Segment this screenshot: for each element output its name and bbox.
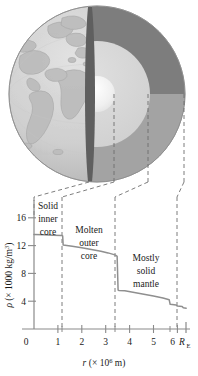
y-tick-label-16: 16 (17, 213, 27, 223)
molten-outer-core-line1: Molten (75, 225, 103, 235)
x-axis-title: r(× 106 m) (83, 357, 126, 369)
molten-outer-core-line2: outer (79, 238, 99, 248)
solid-inner-core-line3: core (40, 227, 56, 237)
mostly-solid-mantle-line1: Mostly (133, 253, 160, 263)
x-tick-label-6: 6 (170, 337, 175, 347)
figure-earth-density: 4 8 12 16 0 1 2 3 4 5 6 R E ρ(× 1000 kg/… (0, 0, 198, 376)
crust-cut-face (85, 7, 95, 182)
solid-inner-core-line1: Solid (38, 201, 58, 211)
x-tick-label-RE-sub: E (187, 342, 191, 349)
svg-text:ρ(× 1000 kg/m3): ρ(× 1000 kg/m3) (3, 243, 15, 309)
connector-lines (34, 182, 184, 197)
y-axis-title-symbol: ρ (4, 302, 14, 308)
density-chart: 4 8 12 16 0 1 2 3 4 5 6 R E ρ(× 1000 kg/… (3, 197, 191, 369)
island-4 (53, 149, 63, 154)
mostly-solid-mantle-line2: solid (137, 266, 156, 276)
x-tick-label-RE-main: R (178, 337, 185, 347)
solid-inner-core-line2: inner (38, 214, 58, 224)
x-tick-label-RE: R E (178, 337, 190, 349)
x-axis-title-open: (× 10 (89, 358, 110, 369)
y-ticks (28, 218, 36, 301)
cut-plane-face (85, 7, 95, 182)
x-tick-label-2: 2 (79, 337, 84, 347)
connector-to-x1p2 (62, 182, 114, 197)
y-tick-label-8: 8 (21, 269, 26, 279)
figure-svg: 4 8 12 16 0 1 2 3 4 5 6 R E ρ(× 1000 kg/… (0, 0, 198, 376)
x-tick-label-1: 1 (56, 337, 61, 347)
y-tick-label-4: 4 (21, 297, 26, 307)
annotation-molten-outer-core: Molten outer core (75, 225, 103, 261)
density-curve (34, 234, 186, 308)
y-tick-label-12: 12 (17, 241, 27, 251)
y-axis-title-open: (× 1000 kg/m (4, 248, 15, 300)
x-axis-title-symbol: r (83, 358, 87, 368)
molten-outer-core-line3: core (81, 251, 97, 261)
continent-wafrica (45, 68, 67, 81)
island-1 (68, 57, 76, 62)
x-tick-label-3: 3 (103, 337, 108, 347)
annotation-mostly-solid-mantle: Mostly solid mantle (133, 253, 160, 289)
y-axis-title: ρ(× 1000 kg/m3) (3, 243, 15, 309)
connector-to-RE (177, 182, 184, 197)
x-tick-label-5: 5 (151, 337, 156, 347)
y-axis-title-close: ) (4, 243, 15, 246)
earth-cutaway-diagram (9, 6, 198, 188)
connector-to-x3p5 (115, 182, 148, 197)
x-axis-title-close: m) (112, 358, 125, 369)
mostly-solid-mantle-line3: mantle (133, 279, 159, 289)
annotation-solid-inner-core: Solid inner core (38, 201, 59, 237)
connector-to-x0 (34, 182, 89, 197)
svg-text:r(× 106 m): r(× 106 m) (83, 357, 126, 369)
x-tick-label-4: 4 (127, 337, 132, 347)
x-tick-label-0: 0 (24, 337, 29, 347)
density-curve-group (34, 234, 186, 308)
